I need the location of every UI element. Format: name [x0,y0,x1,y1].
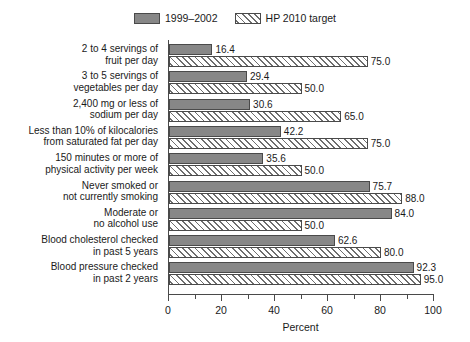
legend-entry-0: 1999–2002 [134,13,218,24]
category-label-line: 2,400 mg or less of [0,98,158,110]
x-axis-ticks [168,295,434,303]
category-label-line: 2 to 4 servings of [0,43,158,55]
category-label-line: 150 minutes or more of [0,152,158,164]
bar-group: 35.650.0 [169,151,434,178]
category-axis-labels: 2 to 4 servings offruit per day3 to 5 se… [0,40,163,295]
bar-value-label: 16.4 [215,44,234,55]
bar-series-1999-2002 [169,235,335,246]
bar-series-hp-2010-target [169,111,341,122]
bar-group: 75.788.0 [169,179,434,206]
category-label-line: not currently smoking [0,191,158,203]
category-label-line: in past 2 years [0,273,158,285]
category-label-line: physical activity per week [0,164,158,176]
bar-series-hp-2010-target [169,193,402,204]
x-tick-label: 80 [374,304,386,316]
category-label: 2 to 4 servings offruit per day [0,43,158,66]
category-label: 2,400 mg or less ofsodium per day [0,98,158,121]
x-tick-major [274,295,275,301]
x-tick-major [327,295,328,301]
bar-value-label: 75.7 [373,181,392,192]
category-label: 3 to 5 servings ofvegetables per day [0,70,158,93]
category-label-line: Blood cholesterol checked [0,234,158,246]
category-label: Less than 10% of kilocaloriesfrom satura… [0,125,158,148]
legend-swatch-solid-icon [134,13,160,24]
x-axis-title: Percent [168,321,433,333]
category-label-line: in past 5 years [0,246,158,258]
bar-series-1999-2002 [169,71,247,82]
category-label-line: fruit per day [0,55,158,67]
legend-label-1: HP 2010 target [266,13,336,24]
bar-value-label: 75.0 [371,138,390,149]
category-label-line: Blood pressure checked [0,261,158,273]
category-label-line: 3 to 5 servings of [0,70,158,82]
x-tick-major [168,295,169,301]
category-label: Moderate orno alcohol use [0,207,158,230]
bar-group: 29.450.0 [169,69,434,96]
x-tick-minor [195,295,196,299]
x-tick-minor [354,295,355,299]
x-tick-label: 0 [165,304,171,316]
bar-series-hp-2010-target [169,247,381,258]
bar-series-1999-2002 [169,153,263,164]
category-label-line: from saturated fat per day [0,136,158,148]
bar-series-1999-2002 [169,262,414,273]
category-label-line: Moderate or [0,207,158,219]
bar-group: 62.680.0 [169,233,434,260]
bar-group: 30.665.0 [169,97,434,124]
bar-series-hp-2010-target [169,138,368,149]
bar-series-hp-2010-target [169,220,302,231]
category-label-line: sodium per day [0,109,158,121]
x-tick-minor [301,295,302,299]
category-label-line: vegetables per day [0,82,158,94]
plot-area: 16.475.029.450.030.665.042.275.035.650.0… [168,40,434,295]
bar-group: 92.395.0 [169,260,434,287]
bar-value-label: 95.0 [424,274,443,285]
bar-series-hp-2010-target [169,83,302,94]
bar-value-label: 35.6 [266,153,285,164]
x-tick-major [433,295,434,301]
chart-legend: 1999–2002 HP 2010 target [0,13,470,24]
bar-value-label: 84.0 [395,208,414,219]
bar-group: 16.475.0 [169,42,434,69]
bar-rows: 16.475.029.450.030.665.042.275.035.650.0… [169,40,434,295]
legend-label-0: 1999–2002 [165,13,218,24]
category-label-line: Less than 10% of kilocalories [0,125,158,137]
bar-value-label: 30.6 [253,99,272,110]
x-tick-minor [248,295,249,299]
category-label: Never smoked ornot currently smoking [0,180,158,203]
bar-series-1999-2002 [169,99,250,110]
x-tick-minor [407,295,408,299]
bar-series-hp-2010-target [169,165,302,176]
category-label-line: no alcohol use [0,218,158,230]
x-tick-label: 100 [424,304,442,316]
bar-value-label: 80.0 [384,247,403,258]
x-tick-major [221,295,222,301]
bar-chart: 1999–2002 HP 2010 target 2 to 4 servings… [0,0,470,342]
bar-series-1999-2002 [169,44,212,55]
bar-series-1999-2002 [169,181,370,192]
bar-series-hp-2010-target [169,274,421,285]
category-label: Blood cholesterol checkedin past 5 years [0,234,158,257]
bar-value-label: 75.0 [371,56,390,67]
bar-value-label: 88.0 [405,193,424,204]
x-tick-label: 40 [268,304,280,316]
category-label-line: Never smoked or [0,180,158,192]
x-tick-label: 60 [321,304,333,316]
bar-value-label: 42.2 [284,126,303,137]
bar-series-1999-2002 [169,208,392,219]
bar-series-hp-2010-target [169,56,368,67]
bar-series-1999-2002 [169,126,281,137]
bar-value-label: 65.0 [344,111,363,122]
bar-value-label: 50.0 [305,220,324,231]
x-tick-label: 20 [215,304,227,316]
legend-swatch-hatched-icon [235,13,261,24]
bar-value-label: 50.0 [305,165,324,176]
bar-value-label: 29.4 [250,71,269,82]
x-tick-major [380,295,381,301]
category-label: 150 minutes or more ofphysical activity … [0,152,158,175]
bar-group: 84.050.0 [169,206,434,233]
bar-value-label: 62.6 [338,235,357,246]
legend-entry-1: HP 2010 target [235,13,336,24]
bar-value-label: 92.3 [417,262,436,273]
category-label: Blood pressure checkedin past 2 years [0,261,158,284]
